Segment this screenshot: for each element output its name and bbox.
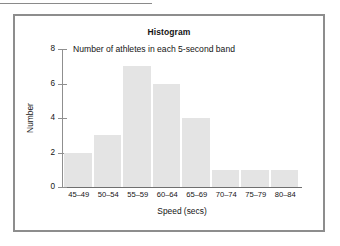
x-axis-tick-label: 75–79 bbox=[241, 190, 271, 199]
x-axis-tick-label: 80–84 bbox=[271, 190, 301, 199]
y-axis-tick-label: 0 bbox=[35, 182, 55, 191]
histogram-bar bbox=[271, 170, 299, 187]
x-axis-tick-label: 70–74 bbox=[212, 190, 242, 199]
bar-series bbox=[64, 49, 300, 187]
histogram-bar bbox=[123, 66, 151, 187]
histogram-bar bbox=[212, 170, 240, 187]
histogram-bar bbox=[94, 135, 122, 187]
y-axis-tick-label: 4 bbox=[35, 113, 55, 122]
x-axis-tick-labels: 45–4950–5455–5960–6465–6970–7475–7980–84 bbox=[64, 190, 300, 204]
x-axis-title: Speed (secs) bbox=[64, 206, 300, 216]
plot-area: 02468 Number 45–4950–5455–5960–6465–6970… bbox=[15, 16, 323, 230]
y-axis-tick-label: 2 bbox=[35, 148, 55, 157]
histogram-bar bbox=[182, 118, 210, 187]
y-axis-tick-label: 6 bbox=[35, 79, 55, 88]
x-axis-tick-label: 55–59 bbox=[123, 190, 153, 199]
x-axis-tick-label: 45–49 bbox=[64, 190, 94, 199]
y-axis-title: Number bbox=[25, 103, 35, 133]
x-axis-line bbox=[62, 187, 302, 188]
histogram-bar bbox=[64, 153, 92, 188]
x-axis-tick-label: 50–54 bbox=[94, 190, 124, 199]
page-top-rule bbox=[0, 3, 152, 4]
x-axis-tick-label: 65–69 bbox=[182, 190, 212, 199]
y-axis-tick bbox=[58, 187, 67, 188]
histogram-figure: Histogram Number of athletes in each 5-s… bbox=[13, 14, 325, 232]
histogram-bar bbox=[153, 84, 181, 188]
x-axis-tick-label: 60–64 bbox=[153, 190, 183, 199]
y-axis-tick-label: 8 bbox=[35, 44, 55, 53]
histogram-bar bbox=[241, 170, 269, 187]
